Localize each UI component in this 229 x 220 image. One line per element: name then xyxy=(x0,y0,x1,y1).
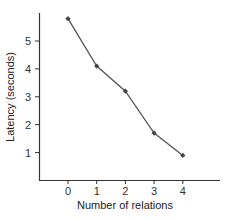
x-tick-label: 3 xyxy=(151,185,157,197)
y-tick-label: 5 xyxy=(25,35,31,47)
x-tick-label: 1 xyxy=(94,185,100,197)
x-ticks: 01234 xyxy=(65,181,186,198)
x-tick-label: 4 xyxy=(180,185,186,197)
series-line xyxy=(68,19,183,156)
y-tick-label: 4 xyxy=(25,63,31,75)
y-ticks: 12345 xyxy=(25,35,40,159)
data-series xyxy=(65,16,185,158)
line-chart: 12345 01234 Number of relations Latency … xyxy=(0,0,229,220)
y-tick-label: 1 xyxy=(25,147,31,159)
y-tick-label: 2 xyxy=(25,119,31,131)
x-tick-label: 2 xyxy=(122,185,128,197)
y-axis-title: Latency (seconds) xyxy=(4,52,16,142)
x-tick-label: 0 xyxy=(65,185,71,197)
y-tick-label: 3 xyxy=(25,91,31,103)
x-axis-title: Number of relations xyxy=(77,199,173,211)
